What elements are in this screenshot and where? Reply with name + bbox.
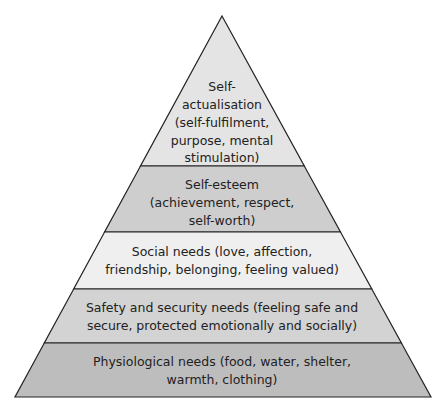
level-physiological-needs-line-2: warmth, clothing) — [167, 372, 278, 387]
level-safety-security-needs-line-2: secure, protected emotionally and social… — [87, 318, 357, 333]
level-self-actualisation-line-2: actualisation — [182, 97, 262, 112]
level-safety-security-needs-shape — [44, 289, 401, 343]
level-self-esteem: Self-esteem (achievement, respect, self-… — [105, 166, 341, 232]
level-social-needs-line-1: Social needs (love, affection, — [132, 244, 313, 259]
level-self-actualisation-line-1: Self- — [208, 79, 235, 94]
level-safety-security-needs: Safety and security needs (feeling safe … — [44, 289, 401, 343]
level-self-actualisation-line-5: stimulation) — [185, 150, 260, 165]
level-self-esteem-line-3: self-worth) — [189, 213, 256, 228]
level-self-esteem-line-2: (achievement, respect, — [150, 195, 295, 210]
needs-pyramid: Self- actualisation (self-fulfilment, pu… — [0, 0, 445, 411]
level-self-actualisation-line-3: (self-fulfilment, — [175, 115, 270, 130]
level-social-needs: Social needs (love, affection, friendshi… — [74, 232, 372, 289]
level-physiological-needs-shape — [15, 343, 431, 397]
level-physiological-needs-line-1: Physiological needs (food, water, shelte… — [93, 354, 351, 369]
level-safety-security-needs-line-1: Safety and security needs (feeling safe … — [86, 300, 358, 315]
level-social-needs-shape — [74, 232, 372, 289]
level-self-actualisation-line-4: purpose, mental — [171, 133, 274, 148]
level-physiological-needs: Physiological needs (food, water, shelte… — [15, 343, 431, 397]
level-self-esteem-line-1: Self-esteem — [185, 177, 259, 192]
level-social-needs-line-2: friendship, belonging, feeling valued) — [105, 262, 339, 277]
level-self-actualisation: Self- actualisation (self-fulfilment, pu… — [141, 16, 305, 166]
